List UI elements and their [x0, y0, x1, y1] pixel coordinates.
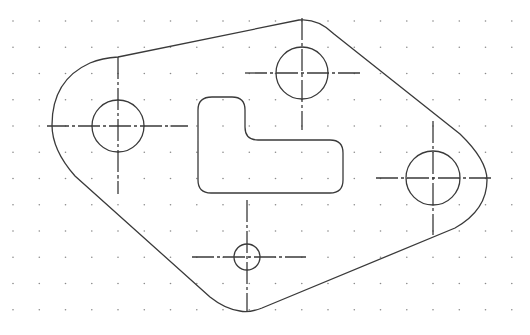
grid-dot	[65, 152, 67, 154]
grid-dot	[327, 309, 329, 311]
grid-dot	[485, 257, 487, 259]
grid-dot	[380, 125, 382, 127]
grid-dot	[327, 257, 329, 259]
grid-dot	[222, 125, 224, 127]
grid-dot	[222, 230, 224, 232]
grid-dot	[117, 283, 119, 285]
grid-dot	[432, 73, 434, 75]
grid-dot	[380, 73, 382, 75]
grid-dot	[196, 99, 198, 101]
grid-dot	[301, 230, 303, 232]
grid-dot	[39, 178, 41, 180]
grid-dot	[459, 73, 461, 75]
grid-dot	[354, 47, 356, 49]
grid-dot	[222, 178, 224, 180]
grid-dot	[117, 309, 119, 311]
grid-dot	[406, 152, 408, 154]
grid-dot	[117, 20, 119, 22]
grid-dot	[485, 73, 487, 75]
grid-dot	[12, 178, 14, 180]
grid-dot	[249, 99, 251, 101]
grid-dot	[222, 152, 224, 154]
grid-dot	[39, 152, 41, 154]
grid-dot	[511, 47, 513, 49]
grid-dot	[275, 20, 277, 22]
grid-dot	[91, 47, 93, 49]
grid-dot	[91, 73, 93, 75]
grid-dot	[459, 257, 461, 259]
grid-dot	[39, 20, 41, 22]
grid-dot	[380, 204, 382, 206]
grid-dot	[511, 20, 513, 22]
grid-dot	[380, 283, 382, 285]
grid-dot	[301, 204, 303, 206]
hole-top[interactable]	[245, 18, 360, 130]
grid-dot	[144, 73, 146, 75]
cad-drawing-canvas[interactable]	[0, 0, 530, 335]
grid-dot	[91, 283, 93, 285]
grid-dot	[511, 99, 513, 101]
grid-dot	[459, 125, 461, 127]
grid-dot	[406, 99, 408, 101]
grid-dot	[485, 309, 487, 311]
grid-dot	[511, 283, 513, 285]
grid-dot	[275, 125, 277, 127]
grid-dot	[459, 99, 461, 101]
grid-dot	[144, 230, 146, 232]
grid-dot	[117, 204, 119, 206]
grid-dot	[39, 47, 41, 49]
grid-dot	[65, 230, 67, 232]
grid-dot	[12, 283, 14, 285]
l-shaped-slot[interactable]	[198, 97, 343, 193]
grid-dot	[459, 283, 461, 285]
grid-dot	[65, 204, 67, 206]
grid-dot	[39, 125, 41, 127]
grid-dot	[91, 99, 93, 101]
hole-right[interactable]	[376, 121, 492, 235]
grid-dot	[406, 257, 408, 259]
grid-dot	[144, 20, 146, 22]
grid-dot	[275, 230, 277, 232]
grid-dot	[12, 230, 14, 232]
grid-dot	[144, 99, 146, 101]
grid-dot	[249, 20, 251, 22]
hole-bottom[interactable]	[192, 200, 306, 312]
grid-dot	[170, 152, 172, 154]
holes-group	[47, 18, 492, 312]
grid-dot	[91, 257, 93, 259]
grid-dot	[301, 152, 303, 154]
grid-dot	[196, 309, 198, 311]
grid-dot	[459, 230, 461, 232]
grid-dot	[170, 309, 172, 311]
grid-dot	[117, 47, 119, 49]
grid-dot	[222, 20, 224, 22]
grid-dot	[12, 204, 14, 206]
grid-dot	[170, 230, 172, 232]
grid-dot	[222, 73, 224, 75]
grid-dot	[170, 204, 172, 206]
grid-dot	[12, 20, 14, 22]
grid-dot	[249, 230, 251, 232]
grid-dot	[406, 230, 408, 232]
grid-dot	[144, 309, 146, 311]
grid-dot	[91, 309, 93, 311]
grid-dot	[327, 178, 329, 180]
grid-dot	[485, 204, 487, 206]
grid-dot	[222, 283, 224, 285]
grid-dot	[406, 20, 408, 22]
grid-dot	[485, 152, 487, 154]
grid-dot	[39, 230, 41, 232]
grid-dot	[12, 47, 14, 49]
grid-dot	[459, 204, 461, 206]
grid-dot	[406, 204, 408, 206]
grid-dot	[511, 309, 513, 311]
grid-dot	[12, 125, 14, 127]
grid-dot	[432, 309, 434, 311]
grid-dot	[354, 257, 356, 259]
grid-dot	[485, 230, 487, 232]
grid-dot	[511, 152, 513, 154]
plate-outline[interactable]	[52, 20, 487, 312]
grid-dot	[327, 204, 329, 206]
grid-dot	[170, 73, 172, 75]
grid-dot	[327, 47, 329, 49]
